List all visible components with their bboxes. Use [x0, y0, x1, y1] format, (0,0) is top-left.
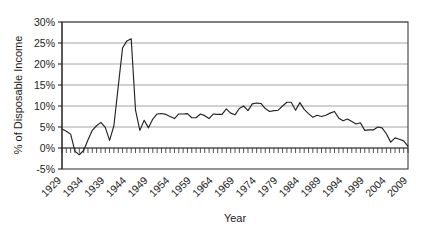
x-tick-label-1944: 1944 — [103, 174, 128, 199]
y-tick-label-5%: 5% — [40, 121, 55, 133]
gridlines-group — [62, 22, 408, 148]
y-tick-label--5%: -5% — [36, 163, 55, 175]
x-tick-label-2004: 2004 — [363, 174, 388, 199]
x-tick-labels: 1929193419391944194919541959196419691974… — [38, 174, 409, 199]
x-tick-label-1934: 1934 — [60, 174, 85, 199]
savings-rate-chart: 30%25%20%15%10%5%0%-5% 19291934193919441… — [0, 0, 440, 229]
x-tick-label-1964: 1964 — [190, 174, 215, 199]
chart-canvas: 30%25%20%15%10%5%0%-5% 19291934193919441… — [0, 0, 440, 229]
x-minor-ticks — [62, 148, 408, 153]
y-tick-label-25%: 25% — [34, 37, 55, 49]
y-tick-label-10%: 10% — [34, 100, 55, 112]
x-tick-label-1994: 1994 — [320, 174, 345, 199]
x-tick-label-1949: 1949 — [125, 174, 150, 199]
x-tick-label-1959: 1959 — [168, 174, 193, 199]
plot-area-border — [62, 22, 408, 169]
x-tick-label-1929: 1929 — [38, 174, 63, 199]
x-tick-label-1979: 1979 — [255, 174, 280, 199]
x-axis-group: 1929193419391944194919541959196419691974… — [38, 148, 409, 199]
y-axis-title: % of Disposable Income — [12, 36, 24, 155]
y-tick-labels: 30%25%20%15%10%5%0%-5% — [34, 16, 55, 175]
x-tick-label-1999: 1999 — [341, 174, 366, 199]
x-axis-title: Year — [224, 212, 247, 224]
x-tick-label-1954: 1954 — [147, 174, 172, 199]
y-axis-group: 30%25%20%15%10%5%0%-5% — [34, 16, 62, 175]
plot-frame-group — [62, 22, 408, 169]
y-tick-label-30%: 30% — [34, 16, 55, 28]
x-tick-label-1984: 1984 — [276, 174, 301, 199]
x-tick-label-1989: 1989 — [298, 174, 323, 199]
y-tick-marks — [58, 22, 62, 169]
y-tick-label-0%: 0% — [40, 142, 55, 154]
y-tick-label-15%: 15% — [34, 79, 55, 91]
data-series-group — [62, 39, 408, 155]
data-line-personal-saving-rate — [62, 39, 408, 155]
x-tick-label-1969: 1969 — [211, 174, 236, 199]
x-tick-label-1939: 1939 — [82, 174, 107, 199]
x-tick-label-2009: 2009 — [384, 174, 409, 199]
x-tick-label-1974: 1974 — [233, 174, 258, 199]
y-tick-label-20%: 20% — [34, 58, 55, 70]
